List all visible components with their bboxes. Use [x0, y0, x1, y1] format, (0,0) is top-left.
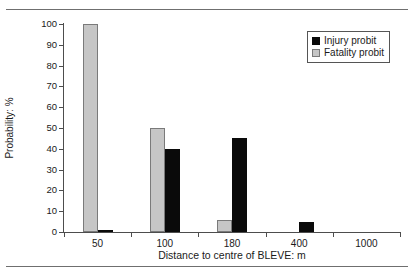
bar-injury [165, 149, 180, 232]
y-tick-mark [59, 149, 63, 150]
y-tick-label: 70 [46, 82, 57, 92]
x-tick-mark [266, 232, 267, 237]
y-tick-mark [59, 232, 63, 233]
bar-fatality [217, 220, 232, 232]
bleve-probability-figure: Probability: % Distance to centre of BLE… [0, 0, 414, 276]
x-tick-label: 100 [156, 239, 173, 249]
bar-injury [232, 138, 247, 232]
y-tick-label: 100 [41, 19, 57, 29]
y-tick-label: 10 [46, 206, 57, 216]
x-tick-mark [131, 232, 132, 237]
y-tick-mark [59, 24, 63, 25]
y-tick-label: 30 [46, 165, 57, 175]
y-tick-mark [59, 128, 63, 129]
y-tick-label: 50 [46, 123, 57, 133]
y-tick-label: 20 [46, 186, 57, 196]
x-tick-mark [64, 232, 65, 237]
x-tick-label: 1000 [355, 239, 377, 249]
x-axis-line [63, 232, 401, 233]
y-tick-mark [59, 170, 63, 171]
bar-injury [98, 230, 113, 232]
y-tick-mark [59, 107, 63, 108]
y-tick-mark [59, 45, 63, 46]
x-tick-mark [400, 232, 401, 237]
bar-fatality [83, 24, 98, 232]
bar-fatality [150, 128, 165, 232]
y-tick-label: 60 [46, 102, 57, 112]
legend-item-injury: Injury probit [312, 35, 384, 47]
chart-legend: Injury probit Fatality probit [307, 31, 390, 63]
x-axis-title: Distance to centre of BLEVE: m [158, 249, 306, 261]
figure-rule-bottom [6, 266, 408, 267]
x-tick-label: 400 [291, 239, 308, 249]
y-tick-label: 40 [46, 144, 57, 154]
y-tick-mark [59, 66, 63, 67]
x-tick-mark [333, 232, 334, 237]
y-axis-title: Probability: % [4, 97, 15, 158]
y-tick-label: 80 [46, 61, 57, 71]
bar-injury [299, 222, 314, 232]
figure-rule-top [6, 9, 408, 10]
y-tick-label: 90 [46, 40, 57, 50]
x-tick-label: 50 [92, 239, 103, 249]
legend-item-fatality: Fatality probit [312, 47, 384, 59]
y-tick-mark [59, 86, 63, 87]
y-tick-mark [59, 211, 63, 212]
legend-label-injury: Injury probit [324, 36, 376, 46]
caption-sliver [7, 0, 337, 6]
gray-square-icon [312, 49, 320, 57]
x-tick-label: 180 [224, 239, 241, 249]
legend-label-fatality: Fatality probit [324, 48, 384, 58]
y-tick-label: 0 [52, 227, 57, 237]
black-square-icon [312, 37, 320, 45]
y-tick-mark [59, 190, 63, 191]
x-tick-mark [198, 232, 199, 237]
